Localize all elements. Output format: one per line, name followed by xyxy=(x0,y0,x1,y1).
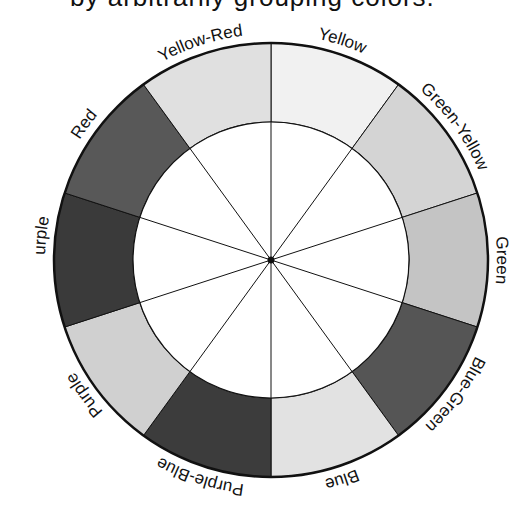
label-green: Green xyxy=(492,236,512,286)
center-hub xyxy=(268,257,275,264)
color-wheel: YellowGreen-YellowGreenBlue-GreenBluePur… xyxy=(0,0,516,517)
label-red-purple: Red-Purple xyxy=(0,0,53,255)
